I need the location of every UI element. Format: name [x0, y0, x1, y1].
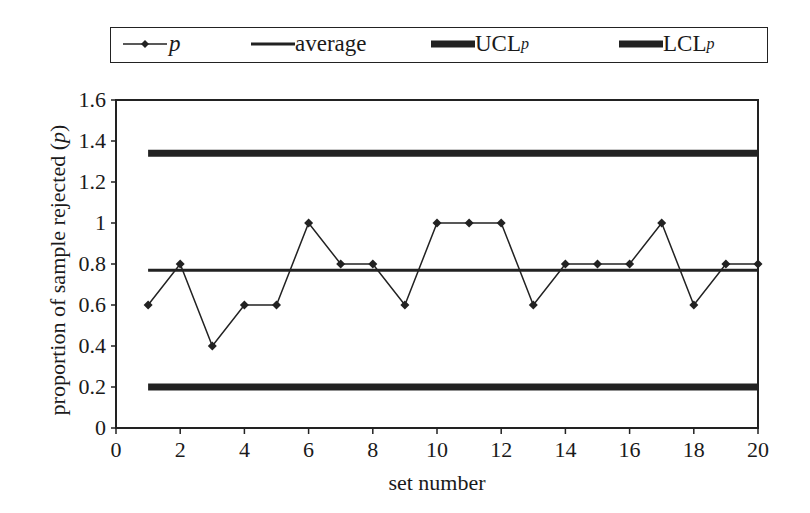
- data-point-marker: [593, 260, 602, 269]
- y-tick-label: 0.8: [79, 251, 107, 276]
- legend-sub-lcl: p: [706, 32, 714, 56]
- y-tick-label: 1.2: [79, 169, 107, 194]
- x-tick-label: 10: [426, 437, 448, 462]
- x-tick-label: 12: [490, 437, 512, 462]
- x-tick-label: 20: [747, 437, 769, 462]
- data-point-marker: [721, 260, 730, 269]
- data-point-marker: [304, 219, 313, 228]
- data-point-marker: [625, 260, 634, 269]
- x-tick-label: 2: [175, 437, 186, 462]
- data-point-marker: [657, 219, 666, 228]
- data-point-marker: [689, 301, 698, 310]
- series-p: [148, 223, 758, 346]
- y-tick-label: 1: [95, 210, 106, 235]
- plot-frame: [116, 100, 758, 428]
- thick-line-swatch-icon: [431, 38, 475, 50]
- plot-area: 00.20.40.60.811.21.41.602468101214161820: [0, 0, 810, 513]
- y-tick-label: 0.4: [79, 333, 107, 358]
- data-point-marker: [208, 342, 217, 351]
- x-tick-label: 0: [111, 437, 122, 462]
- data-point-marker: [561, 260, 570, 269]
- data-point-marker: [240, 301, 249, 310]
- data-point-marker: [400, 301, 409, 310]
- chart-legend: p average UCLp LCLp: [110, 27, 768, 63]
- x-tick-label: 18: [683, 437, 705, 462]
- data-point-marker: [529, 301, 538, 310]
- data-point-marker: [368, 260, 377, 269]
- legend-item-p: p: [121, 32, 181, 56]
- y-axis-label: proportion of sample rejected (p): [45, 125, 71, 416]
- data-point-marker: [754, 260, 763, 269]
- y-tick-label: 0.2: [79, 374, 107, 399]
- x-tick-label: 6: [303, 437, 314, 462]
- legend-sub-ucl: p: [521, 32, 529, 56]
- data-point-marker: [336, 260, 345, 269]
- data-point-marker: [144, 301, 153, 310]
- y-tick-label: 1.4: [79, 128, 107, 153]
- legend-label-average: average: [295, 32, 367, 56]
- legend-item-ucl: UCLp: [431, 32, 529, 56]
- data-point-marker: [433, 219, 442, 228]
- data-point-marker: [272, 301, 281, 310]
- data-point-marker: [465, 219, 474, 228]
- thick-line-swatch-icon: [619, 38, 663, 50]
- thin-line-swatch-icon: [251, 38, 295, 50]
- x-tick-label: 14: [554, 437, 576, 462]
- data-point-marker: [176, 260, 185, 269]
- legend-label-ucl: UCL: [475, 32, 521, 56]
- x-tick-label: 16: [619, 437, 641, 462]
- x-axis-label: set number: [388, 470, 485, 496]
- legend-item-average: average: [251, 32, 367, 56]
- y-tick-label: 1.6: [79, 87, 107, 112]
- y-tick-label: 0.6: [79, 292, 107, 317]
- y-tick-label: 0: [95, 415, 106, 440]
- x-tick-label: 4: [239, 437, 250, 462]
- line-marker-swatch-icon: [121, 38, 169, 50]
- x-tick-label: 8: [367, 437, 378, 462]
- legend-label-lcl: LCL: [663, 32, 706, 56]
- data-point-marker: [497, 219, 506, 228]
- legend-label-p: p: [169, 32, 181, 56]
- legend-item-lcl: LCLp: [619, 32, 714, 56]
